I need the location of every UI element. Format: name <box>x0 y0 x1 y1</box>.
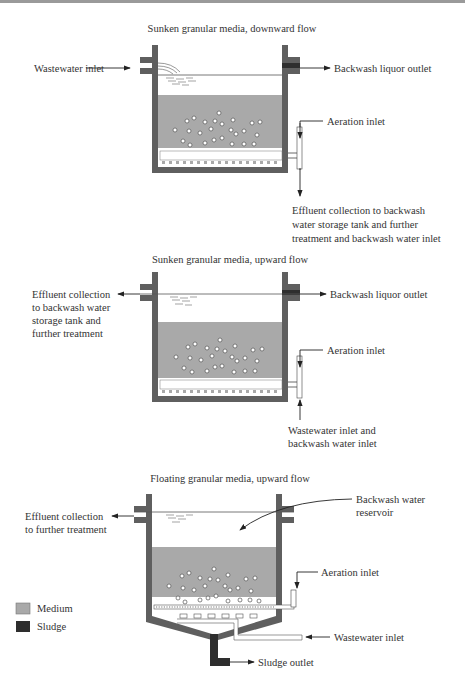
label-effluent-1a: Effluent collection to backwash <box>292 205 426 216</box>
label-effluent-3a: Effluent collection <box>25 511 104 522</box>
label-backwash-liquor-outlet-2: Backwash liquor outlet <box>330 289 427 300</box>
label-effluent-2a: Effluent collection <box>32 289 111 300</box>
sludge-flocs-1 <box>166 78 196 85</box>
legend-label-sludge: Sludge <box>37 621 67 632</box>
label-effluent-1b: water storage tank and further <box>292 219 418 230</box>
legend-label-medium: Medium <box>37 603 73 614</box>
medium-layer-3 <box>152 547 276 597</box>
label-effluent-2d: further treatment <box>32 328 103 339</box>
panel-2-title: Sunken granular media, upward flow <box>152 254 308 265</box>
panel-1-title: Sunken granular media, downward flow <box>148 23 317 34</box>
legend-swatch-medium <box>16 603 30 614</box>
panel-upward-flow: Sunken granular media, upward flow <box>32 254 427 449</box>
label-effluent-1c: treatment and backwash water inlet <box>292 233 441 244</box>
tank-3 <box>134 494 302 666</box>
panel-floating-media: Floating granular media, upward flow <box>25 473 426 668</box>
panel-downward-flow: Sunken granular media, downward flow <box>34 23 441 244</box>
label-reservoir-b: reservoir <box>356 507 394 518</box>
diagram-canvas: Sunken granular media, downward flow <box>0 0 465 686</box>
legend: Medium Sludge <box>16 603 73 632</box>
label-effluent-2b: to backwash water <box>32 302 111 313</box>
label-backwash-liquor-outlet-1: Backwash liquor outlet <box>334 63 431 74</box>
label-wastewater-backwash-2a: Wastewater inlet and <box>288 425 377 436</box>
tank-2 <box>140 272 302 402</box>
label-aeration-inlet-1: Aeration inlet <box>327 116 385 127</box>
label-reservoir-a: Backwash water <box>356 494 426 505</box>
legend-swatch-sludge <box>16 621 30 632</box>
label-wastewater-inlet-1: Wastewater inlet <box>34 63 104 74</box>
panel-3-title: Floating granular media, upward flow <box>150 473 310 484</box>
medium-layer-1 <box>158 95 282 148</box>
tank-1 <box>140 45 302 173</box>
label-aeration-inlet-2: Aeration inlet <box>327 345 385 356</box>
label-sludge-outlet: Sludge outlet <box>258 657 314 668</box>
label-effluent-3b: to further treatment <box>25 524 107 535</box>
label-wastewater-inlet-3: Wastewater inlet <box>334 632 404 643</box>
label-effluent-2c: storage tank and <box>32 315 102 326</box>
label-aeration-inlet-3: Aeration inlet <box>321 567 379 578</box>
label-wastewater-backwash-2b: backwash water inlet <box>288 438 377 449</box>
